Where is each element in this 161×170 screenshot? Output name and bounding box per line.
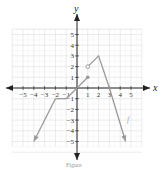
svg-text:−4: −4 xyxy=(30,91,38,99)
svg-text:−5: −5 xyxy=(19,91,27,99)
function-label: f xyxy=(127,115,131,124)
y-axis-label: y xyxy=(73,3,79,14)
figure-caption: Figure xyxy=(66,162,82,168)
svg-text:−2: −2 xyxy=(52,91,60,99)
svg-text:2: 2 xyxy=(71,63,75,71)
svg-text:−2: −2 xyxy=(67,106,75,114)
svg-text:5: 5 xyxy=(129,91,133,99)
svg-text:−5: −5 xyxy=(67,138,75,146)
x-axis-label: x xyxy=(152,82,158,93)
svg-text:1: 1 xyxy=(86,91,90,99)
piecewise-function-graph: −5−4−3−2−11234554321−1−2−3−4−5 x y f Fig… xyxy=(0,0,161,170)
svg-text:4: 4 xyxy=(118,91,122,99)
svg-text:2: 2 xyxy=(97,91,101,99)
svg-text:−3: −3 xyxy=(41,91,49,99)
svg-text:−4: −4 xyxy=(67,127,75,135)
svg-text:1: 1 xyxy=(71,74,75,82)
svg-text:5: 5 xyxy=(71,31,75,39)
svg-text:4: 4 xyxy=(71,42,75,50)
svg-text:3: 3 xyxy=(71,52,75,60)
svg-text:−3: −3 xyxy=(67,117,75,125)
